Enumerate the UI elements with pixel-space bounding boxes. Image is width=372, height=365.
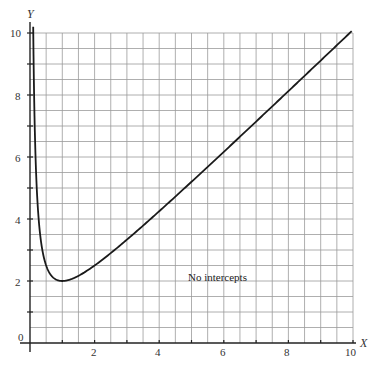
y-tick-label: 2 [15, 276, 21, 288]
y-tick-label: 0 [18, 331, 24, 343]
x-tick-label: 6 [220, 346, 226, 358]
y-tick-label: 6 [15, 152, 21, 164]
x-tick-label: 8 [284, 346, 290, 358]
grid-lines [30, 33, 353, 343]
y-tick-label: 8 [15, 90, 21, 102]
x-tick-label: 4 [155, 346, 161, 358]
annotation-no-intercepts: No intercepts [188, 271, 247, 283]
y-axis-label: Y [27, 7, 35, 21]
x-axis-label: X [359, 336, 368, 350]
y-tick-label: 4 [15, 214, 21, 226]
function-curve [33, 27, 351, 281]
y-tick-label: 10 [10, 27, 22, 39]
x-tick-label: 2 [91, 346, 97, 358]
x-tick-label: 10 [345, 346, 357, 358]
chart: Y X 10 8 6 4 2 0 2 4 6 8 10 No intercept… [0, 0, 372, 365]
